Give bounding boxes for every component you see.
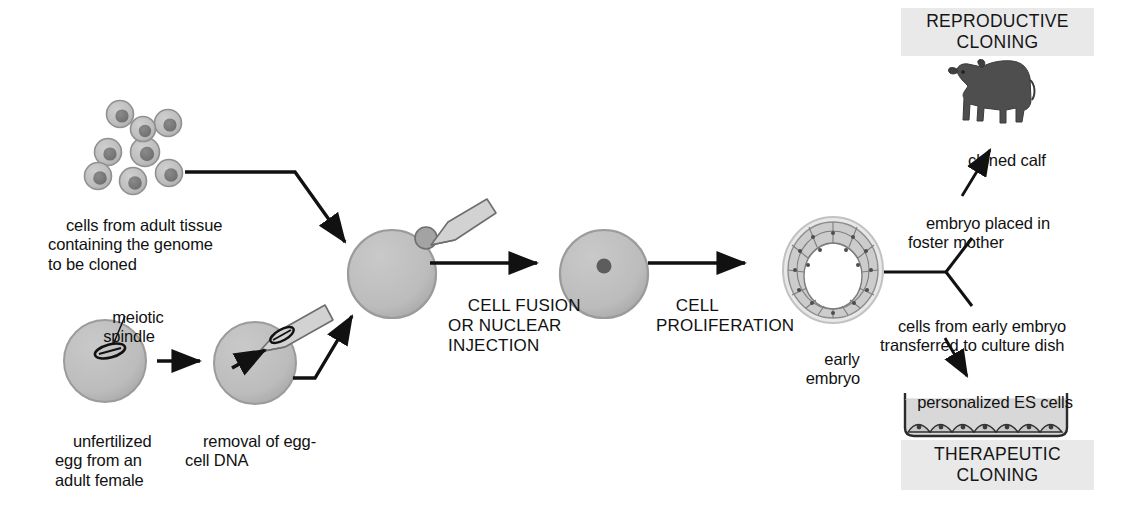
cell-cluster-icon	[85, 101, 183, 195]
stage-label-cell-fusion: CELL FUSION OR NUCLEAR INJECTION	[448, 276, 581, 376]
stage-label-cell-fusion-text: CELL FUSION OR NUCLEAR INJECTION	[448, 296, 581, 355]
label-adult-cells: cells from adult tissue containing the g…	[48, 196, 222, 294]
banner-therapeutic-cloning: THERAPEUTIC CLONING	[901, 440, 1094, 490]
label-meiotic-spindle-text: meiotic spindle	[103, 308, 164, 346]
cloned-calf-icon	[948, 59, 1034, 123]
banner-therapeutic-cloning-label: THERAPEUTIC CLONING	[934, 444, 1061, 486]
cloning-diagram: REPRODUCTIVE CLONING THERAPEUTIC CLONING…	[0, 0, 1137, 510]
label-es-cells-text: personalized ES cells	[917, 393, 1073, 411]
banner-reproductive-cloning-label: REPRODUCTIVE CLONING	[926, 11, 1069, 53]
label-foster-mother-text: embryo placed in foster mother	[908, 214, 1050, 252]
stage-label-cell-proliferation: CELL PROLIFERATION	[656, 276, 794, 356]
label-egg-dna-removal: removal of egg- cell DNA	[185, 412, 316, 490]
label-culture-transfer-text: cells from early embryo transferred to c…	[880, 317, 1066, 355]
fused-cell-icon	[348, 227, 437, 318]
label-meiotic-spindle: meiotic spindle	[74, 288, 184, 366]
banner-reproductive-cloning: REPRODUCTIVE CLONING	[901, 8, 1094, 56]
label-foster-mother: embryo placed in foster mother	[908, 194, 1050, 272]
label-cloned-calf-text: cloned calf	[968, 151, 1046, 169]
early-embryo-icon	[783, 217, 883, 323]
label-early-embryo-text: early embryo	[806, 350, 860, 388]
label-es-cells: personalized ES cells	[896, 373, 1076, 432]
injection-pipette-icon	[431, 199, 496, 245]
label-cloned-calf: cloned calf	[908, 131, 1088, 190]
label-culture-transfer: cells from early embryo transferred to c…	[880, 297, 1066, 375]
label-unfertilized-egg-text: unfertilized egg from an adult female	[55, 432, 152, 489]
label-adult-cells-text: cells from adult tissue containing the g…	[48, 216, 222, 273]
label-early-embryo: early embryo	[778, 330, 888, 408]
label-egg-dna-removal-text: removal of egg- cell DNA	[185, 432, 316, 470]
stage-label-cell-proliferation-text: CELL PROLIFERATION	[656, 296, 794, 335]
label-unfertilized-egg: unfertilized egg from an adult female	[55, 412, 152, 510]
